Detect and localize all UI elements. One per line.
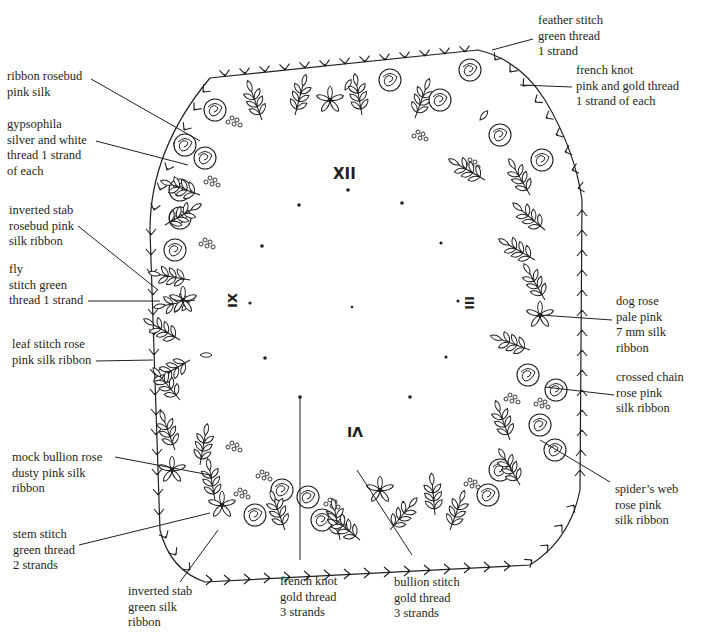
label-bullion-stitch: bullion stitch gold thread 3 strands <box>394 575 460 622</box>
floral-garland <box>139 59 567 548</box>
label-mock-bullion-rose: mock bullion rose dusty pink silk ribbon <box>12 450 102 497</box>
label-french-knot-gold: french knot gold thread 3 strands <box>280 574 337 621</box>
label-dog-rose: dog rose pale pink 7 mm silk ribbon <box>616 294 666 356</box>
numeral-six: VI <box>347 424 363 440</box>
clock-hour-dots <box>248 188 459 399</box>
label-inverted-stab-rosebud: inverted stab rosebud pink silk ribbon <box>9 203 74 250</box>
label-gypsophila: gypsophila silver and white thread 1 str… <box>7 117 87 179</box>
label-ribbon-rosebud: ribbon rosebud pink silk <box>7 69 82 100</box>
label-crossed-chain: crossed chain rose pink silk ribbon <box>616 370 684 417</box>
numeral-twelve: XII <box>333 165 356 183</box>
label-inverted-stab-green: inverted stab green silk ribbon <box>128 584 192 631</box>
numeral-three: III <box>462 296 476 309</box>
numeral-nine: IX <box>225 293 240 308</box>
label-leaf-stitch: leaf stitch rose pink silk ribbon <box>12 337 91 368</box>
label-french-knot-pink-gold: french knot pink and gold thread 1 stran… <box>576 63 679 110</box>
label-spiders-web: spider’s web rose pink silk ribbon <box>615 482 678 529</box>
label-stem-stitch: stem stitch green thread 2 strands <box>13 527 75 574</box>
label-feather-stitch: feather stitch green thread 1 strand <box>538 13 603 60</box>
label-fly-stitch: fly stitch green thread 1 strand <box>9 262 83 309</box>
